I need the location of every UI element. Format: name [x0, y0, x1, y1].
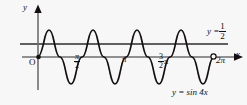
fraction-numerator: 1: [219, 22, 226, 31]
fraction-denominator: 2: [74, 61, 80, 70]
sine-graph-figure: y x O π 2 π 3 2 π 2π y = 1 2 y = sin 4x: [0, 0, 247, 105]
graph-canvas: [0, 0, 247, 105]
pi-suffix: π: [164, 57, 169, 66]
fraction-numerator: π: [74, 53, 80, 61]
y-axis-label: y: [23, 3, 27, 12]
horizontal-line-annotation: y = 1 2: [207, 22, 226, 41]
hline-prefix: y =: [207, 27, 219, 36]
x-tick-label-pi: π: [122, 55, 127, 64]
x-tick-label-pi-over-2: π 2: [74, 53, 80, 70]
fraction-denominator: 2: [219, 31, 226, 41]
origin-label: O: [29, 58, 36, 67]
x-tick-label-two-pi: 2π: [216, 56, 225, 65]
fraction-one-half: 1 2: [219, 22, 226, 41]
y-axis-arrowhead: [34, 5, 41, 14]
fraction-pi-over-2: π 2: [74, 53, 80, 70]
origin-filled-dot-marker: [36, 55, 41, 60]
x-axis-label: x: [236, 50, 240, 59]
curve-equation-annotation: y = sin 4x: [172, 88, 208, 97]
x-tick-label-three-pi-over-2: 3 2 π: [158, 53, 169, 70]
